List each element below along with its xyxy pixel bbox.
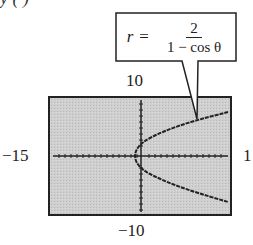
equation-fraction: 2 1 − cos θ <box>163 19 225 56</box>
ymin-label: −10 <box>118 221 145 241</box>
xmin-label: −15 <box>2 146 29 166</box>
xmax-label: 1 <box>243 146 252 166</box>
equation-equals: = <box>139 27 149 47</box>
fraction-denominator: 1 − cos θ <box>163 38 225 56</box>
ymax-label: 10 <box>126 71 143 91</box>
fraction-numerator: 2 <box>186 19 202 38</box>
callout-equation: r = 2 1 − cos θ <box>116 13 236 61</box>
equation-lhs: r <box>127 27 134 47</box>
